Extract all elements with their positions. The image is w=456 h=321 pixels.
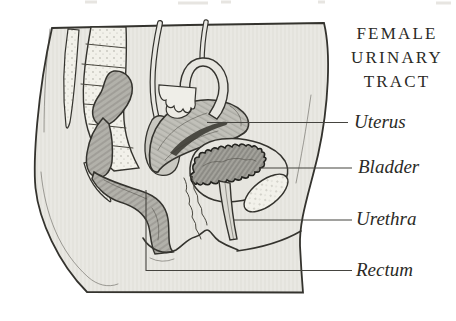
title-line-2: URINARY <box>351 48 443 67</box>
label-texts: Uterus Bladder Urethra Rectum <box>354 111 420 280</box>
uterus-label: Uterus <box>354 111 406 132</box>
urethra-label: Urethra <box>356 208 417 229</box>
torso-outline <box>35 23 328 293</box>
bladder-label: Bladder <box>358 156 420 177</box>
title-block: FEMALE URINARY TRACT <box>351 24 443 91</box>
title-line-1: FEMALE <box>356 24 437 43</box>
medical-illustration-page: FEMALE URINARY TRACT Uterus Bladder Uret… <box>0 0 456 321</box>
torso-section <box>35 23 328 293</box>
page-crop-artifacts <box>85 2 451 3</box>
title-line-3: TRACT <box>364 72 431 91</box>
anatomy-diagram-svg: FEMALE URINARY TRACT Uterus Bladder Uret… <box>0 0 456 321</box>
rectum-label: Rectum <box>355 259 413 280</box>
